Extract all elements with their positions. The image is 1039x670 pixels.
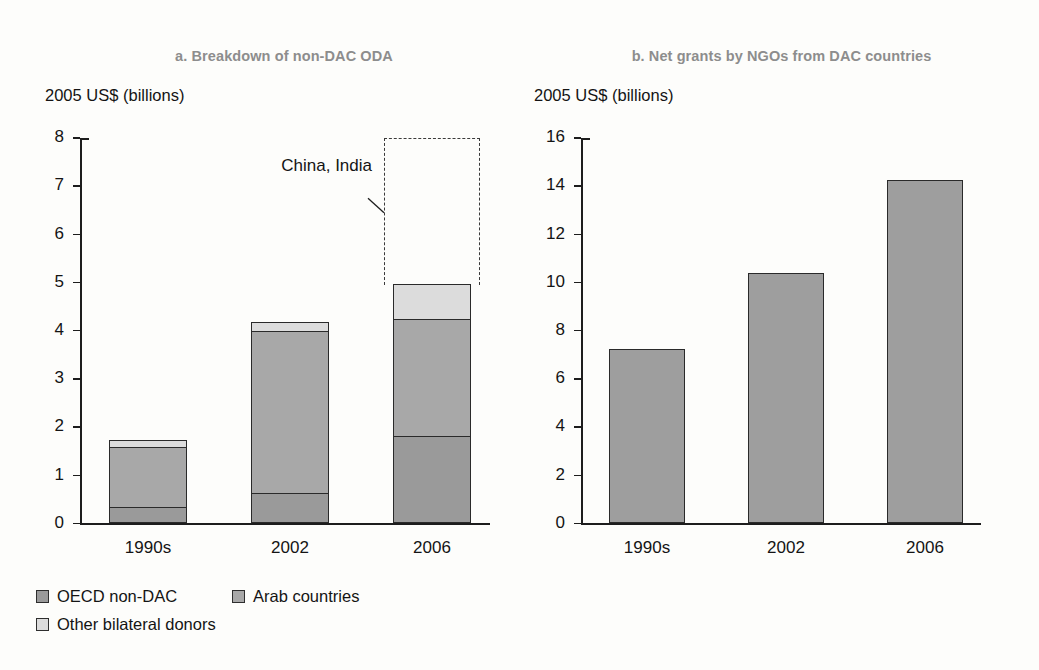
legend-item-arab-countries: Arab countries [232, 587, 359, 606]
y-tick-label-12: 12 [546, 225, 565, 242]
legend-label-oecd-non-dac: OECD non-DAC [57, 587, 177, 606]
legend-row-1: OECD non-DAC Arab countries [36, 582, 506, 610]
x-axis-label-2002: 2002 [767, 538, 805, 558]
legend-swatch-oecd-non-dac-icon [36, 590, 49, 603]
legend-swatch-arab-countries-icon [232, 590, 245, 603]
y-tick-4: 4 [574, 426, 581, 427]
y-tick-label-1: 1 [55, 466, 64, 483]
y-tick-10: 10 [574, 282, 581, 283]
y-tick-label-8: 8 [556, 321, 565, 338]
y-tick-0: 0 [73, 523, 80, 524]
x-axis-label-2006: 2006 [413, 538, 451, 558]
panel-a-plot-area: 012345678 1990s20022006 China, India [80, 138, 490, 525]
y-tick-label-4: 4 [556, 418, 565, 435]
y-tick-0: 0 [574, 523, 581, 524]
x-axis-label-2002: 2002 [271, 538, 309, 558]
panel-b-y-axis-top-cap [581, 138, 590, 140]
y-tick-16: 16 [574, 137, 581, 138]
y-tick-label-0: 0 [556, 514, 565, 531]
y-tick-12: 12 [574, 234, 581, 235]
y-tick-label-4: 4 [55, 321, 64, 338]
y-tick-8: 8 [73, 137, 80, 138]
x-axis-label-1990s: 1990s [624, 538, 670, 558]
panel-b-plot-area: 0246810121416 1990s20022006 [581, 138, 981, 525]
panel-a-title: a. Breakdown of non-DAC ODA [0, 48, 540, 64]
y-tick-label-7: 7 [55, 177, 64, 194]
panel-a-legend: OECD non-DAC Arab countries Other bilate… [36, 582, 506, 638]
y-tick-6: 6 [574, 378, 581, 379]
x-axis-label-2006: 2006 [906, 538, 944, 558]
y-tick-5: 5 [73, 282, 80, 283]
y-tick-14: 14 [574, 185, 581, 186]
y-tick-6: 6 [73, 234, 80, 235]
panel-a-axis-unit: 2005 US$ (billions) [45, 86, 184, 105]
y-tick-1: 1 [73, 475, 80, 476]
y-tick-label-3: 3 [55, 369, 64, 386]
y-tick-7: 7 [73, 185, 80, 186]
x-axis-label-1990s: 1990s [125, 538, 171, 558]
y-tick-label-0: 0 [55, 514, 64, 531]
y-tick-label-10: 10 [546, 273, 565, 290]
y-tick-label-5: 5 [55, 273, 64, 290]
legend-item-oecd-non-dac: OECD non-DAC [36, 587, 232, 606]
y-tick-label-14: 14 [546, 177, 565, 194]
y-tick-label-2: 2 [55, 418, 64, 435]
legend-swatch-other-bilateral-donors-icon [36, 618, 49, 631]
bar-2002 [748, 273, 824, 524]
legend-item-other-bilateral-donors: Other bilateral donors [36, 615, 232, 634]
legend-label-arab-countries: Arab countries [253, 587, 359, 606]
panel-b-axis-unit: 2005 US$ (billions) [534, 86, 673, 105]
bar-2006 [887, 180, 963, 523]
legend-label-other-bilateral-donors: Other bilateral donors [57, 615, 216, 634]
y-tick-label-16: 16 [546, 128, 565, 145]
panel-b-title: b. Net grants by NGOs from DAC countries [512, 48, 1039, 64]
panel-b-net-grants-by-ngos: b. Net grants by NGOs from DAC countries… [512, 0, 1039, 670]
bar-1990s [609, 349, 685, 524]
y-tick-label-2: 2 [556, 466, 565, 483]
y-tick-3: 3 [73, 378, 80, 379]
y-tick-8: 8 [574, 330, 581, 331]
y-tick-label-8: 8 [55, 128, 64, 145]
annotation-leader-line [80, 138, 490, 525]
y-tick-4: 4 [73, 330, 80, 331]
panel-b-x-axis [581, 523, 981, 525]
y-tick-label-6: 6 [556, 369, 565, 386]
y-tick-2: 2 [574, 475, 581, 476]
panel-a-breakdown-non-dac-oda: a. Breakdown of non-DAC ODA 2005 US$ (bi… [0, 0, 512, 670]
panel-b-y-axis [581, 138, 583, 525]
y-tick-2: 2 [73, 426, 80, 427]
y-tick-label-6: 6 [55, 225, 64, 242]
legend-row-2: Other bilateral donors [36, 610, 506, 638]
